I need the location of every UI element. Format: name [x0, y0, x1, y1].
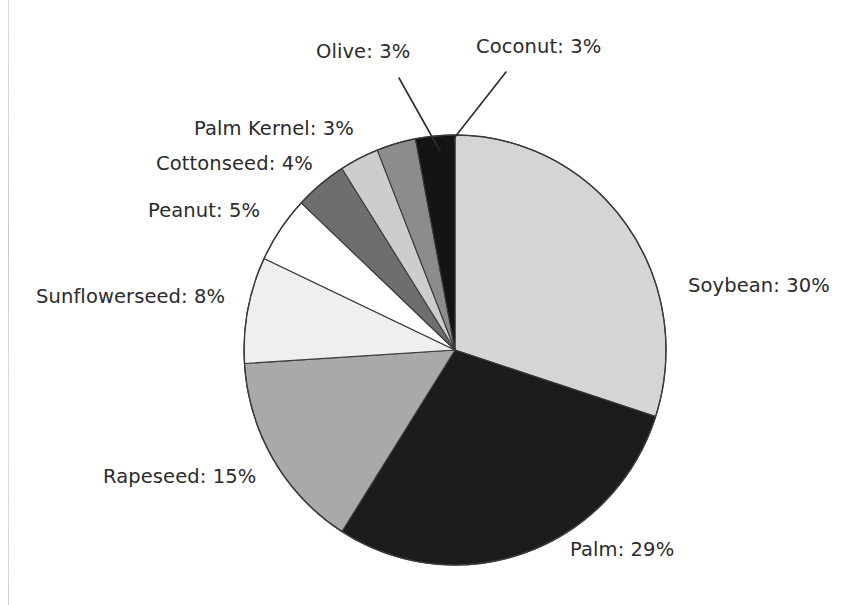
slice-label-palm-kernel: Palm Kernel: 3% [194, 117, 354, 140]
slice-label-rapeseed: Rapeseed: 15% [103, 465, 256, 488]
slice-label-olive: Olive: 3% [316, 40, 410, 63]
slice-label-coconut: Coconut: 3% [476, 35, 601, 58]
slice-label-soybean: Soybean: 30% [688, 274, 830, 297]
slice-label-cottonseed: Cottonseed: 4% [156, 152, 313, 175]
leader-line-coconut [455, 72, 506, 137]
slice-label-peanut: Peanut: 5% [148, 199, 260, 222]
slice-label-palm: Palm: 29% [570, 538, 674, 561]
pie-chart-figure: Olive: 3% Coconut: 3% Palm Kernel: 3% Co… [0, 0, 860, 605]
slice-label-sunflowerseed: Sunflowerseed: 8% [36, 285, 225, 308]
pie-slice-group [244, 135, 666, 565]
